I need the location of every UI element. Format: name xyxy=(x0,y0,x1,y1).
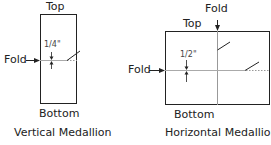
measure-arrow-down-icon xyxy=(50,57,54,61)
horizontal-fold-top-label: Fold xyxy=(205,3,228,15)
vertical-bottom-label: Bottom xyxy=(39,108,79,120)
horizontal-side-flap xyxy=(245,62,259,71)
vertical-caption: Vertical Medallion xyxy=(14,127,112,139)
vertical-measure-label: 1/4" xyxy=(44,40,61,49)
vertical-fold-flap xyxy=(67,51,80,61)
vertical-top-label: Top xyxy=(46,1,65,13)
horizontal-bottom-label: Bottom xyxy=(174,109,214,121)
horizontal-top-label: Top xyxy=(183,18,202,30)
vertical-medallion-rect xyxy=(41,15,77,104)
horizontal-fold-left-label: Fold xyxy=(128,64,151,76)
measure-arrow-up-icon xyxy=(50,61,54,65)
vertical-fold-arrow-icon xyxy=(34,58,40,63)
vertical-fold-label: Fold xyxy=(4,54,27,66)
horizontal-top-fold-arrow-icon xyxy=(215,25,220,31)
horizontal-top-flap xyxy=(218,42,231,50)
horizontal-caption: Horizontal Medallion xyxy=(165,127,271,139)
horizontal-measure-label: 1/2" xyxy=(180,50,197,59)
horizontal-fold-arrow-icon xyxy=(159,68,165,73)
